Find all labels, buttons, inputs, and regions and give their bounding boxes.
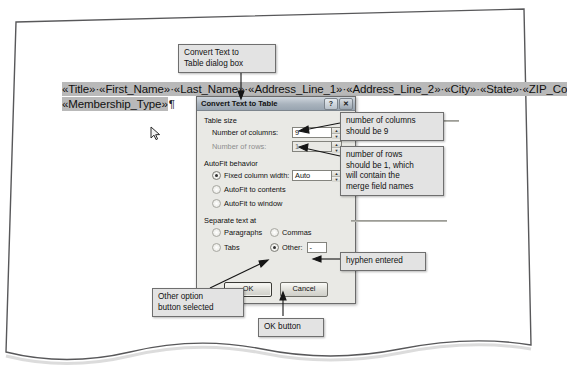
number-of-columns-label: Number of columns: bbox=[212, 128, 278, 137]
radio-commas-label: Commas bbox=[282, 228, 312, 237]
group-table-size-legend-text: Table size bbox=[204, 116, 237, 125]
group-separate-legend: Separate text at bbox=[204, 216, 348, 225]
callout-number-of-columns: number of columns should be 9 bbox=[340, 112, 444, 141]
callout-number-of-rows: number of rows should be 1, which will c… bbox=[340, 146, 444, 196]
group-separate-legend-text: Separate text at bbox=[204, 216, 256, 225]
callout-other-option-selected: Other option button selected bbox=[152, 288, 244, 317]
number-of-rows-input[interactable]: 1 bbox=[292, 141, 331, 152]
help-icon[interactable]: ? bbox=[324, 98, 338, 110]
radio-commas[interactable] bbox=[270, 228, 279, 237]
radio-paragraphs[interactable] bbox=[212, 228, 221, 237]
fixed-column-width-stepper[interactable]: Auto ▲ ▼ bbox=[292, 170, 342, 181]
radio-fixed-column-width[interactable] bbox=[212, 171, 221, 180]
radio-autofit-to-contents-label: AutoFit to contents bbox=[224, 185, 286, 194]
group-autofit-legend: AutoFit behavior bbox=[204, 159, 348, 168]
convert-text-to-table-dialog[interactable]: Convert Text to Table ? ✕ Table size Num… bbox=[196, 96, 356, 304]
radio-row-tabs-other: Tabs Other: - bbox=[212, 242, 348, 253]
dialog-title: Convert Text to Table bbox=[201, 99, 323, 108]
number-of-columns-input[interactable]: 9 bbox=[292, 127, 331, 138]
fixed-column-width-input[interactable]: Auto bbox=[292, 170, 331, 181]
dialog-titlebar[interactable]: Convert Text to Table ? ✕ bbox=[197, 97, 355, 111]
radio-fixed-column-width-label: Fixed column width: bbox=[224, 171, 289, 180]
document-line-2-text: «Membership_Type» bbox=[62, 97, 168, 111]
radio-autofit-to-window-label: AutoFit to window bbox=[224, 199, 282, 208]
group-autofit-legend-text: AutoFit behavior bbox=[204, 159, 258, 168]
radio-other-label: Other: bbox=[282, 243, 303, 252]
dialog-body: Table size Number of columns: 9 ▲ ▼ Numb… bbox=[197, 111, 355, 253]
radio-tabs[interactable] bbox=[212, 243, 221, 252]
group-autofit-behavior: AutoFit behavior Fixed column width: Aut… bbox=[204, 159, 348, 209]
document-line-1-text: «Title»·«First_Name»·«Last_Name»·«Addres… bbox=[62, 82, 567, 96]
radio-other[interactable] bbox=[270, 243, 279, 252]
row-number-of-rows: Number of rows: 1 ▲ ▼ bbox=[212, 141, 348, 152]
radio-row-autofit-to-window[interactable]: AutoFit to window bbox=[212, 198, 348, 209]
number-of-rows-stepper[interactable]: 1 ▲ ▼ bbox=[292, 141, 342, 152]
number-of-rows-label: Number of rows: bbox=[212, 142, 266, 151]
group-table-size: Table size Number of columns: 9 ▲ ▼ Numb… bbox=[204, 116, 348, 152]
radio-tabs-label: Tabs bbox=[224, 243, 270, 252]
group-table-size-legend: Table size bbox=[204, 116, 348, 125]
callout-hyphen-entered: hyphen entered bbox=[340, 252, 426, 271]
close-icon[interactable]: ✕ bbox=[339, 98, 353, 110]
row-number-of-columns: Number of columns: 9 ▲ ▼ bbox=[212, 127, 348, 138]
cancel-button[interactable]: Cancel bbox=[280, 282, 328, 297]
callout-dialog-name: Convert Text to Table dialog box bbox=[178, 44, 276, 73]
radio-autofit-to-window[interactable] bbox=[212, 199, 221, 208]
group-separate-text-at: Separate text at Paragraphs Commas Tabs … bbox=[204, 216, 348, 253]
paragraph-mark-icon: ¶ bbox=[168, 98, 176, 110]
radio-paragraphs-label: Paragraphs bbox=[224, 228, 270, 237]
radio-row-paragraphs-commas: Paragraphs Commas bbox=[212, 227, 348, 238]
group-divider bbox=[351, 220, 447, 222]
document-line-1: «Title»·«First_Name»·«Last_Name»·«Addres… bbox=[62, 82, 532, 97]
radio-row-fixed-column-width[interactable]: Fixed column width: Auto ▲ ▼ bbox=[212, 170, 348, 181]
radio-row-autofit-to-contents[interactable]: AutoFit to contents bbox=[212, 184, 348, 195]
radio-autofit-to-contents[interactable] bbox=[212, 185, 221, 194]
other-separator-input[interactable]: - bbox=[307, 242, 327, 253]
callout-ok-button: OK button bbox=[258, 318, 324, 337]
number-of-columns-stepper[interactable]: 9 ▲ ▼ bbox=[292, 127, 342, 138]
mouse-pointer-icon bbox=[150, 126, 161, 145]
